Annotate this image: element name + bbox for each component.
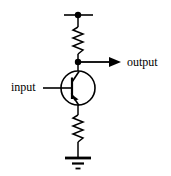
emitter-resistor [73,115,83,142]
circuit-diagram: input output [0,0,171,176]
output-label: output [127,56,158,68]
input-label: input [11,81,36,93]
collector-resistor [73,27,83,54]
output-arrowhead-icon [109,57,121,67]
transistor-collector-lead [72,72,79,83]
